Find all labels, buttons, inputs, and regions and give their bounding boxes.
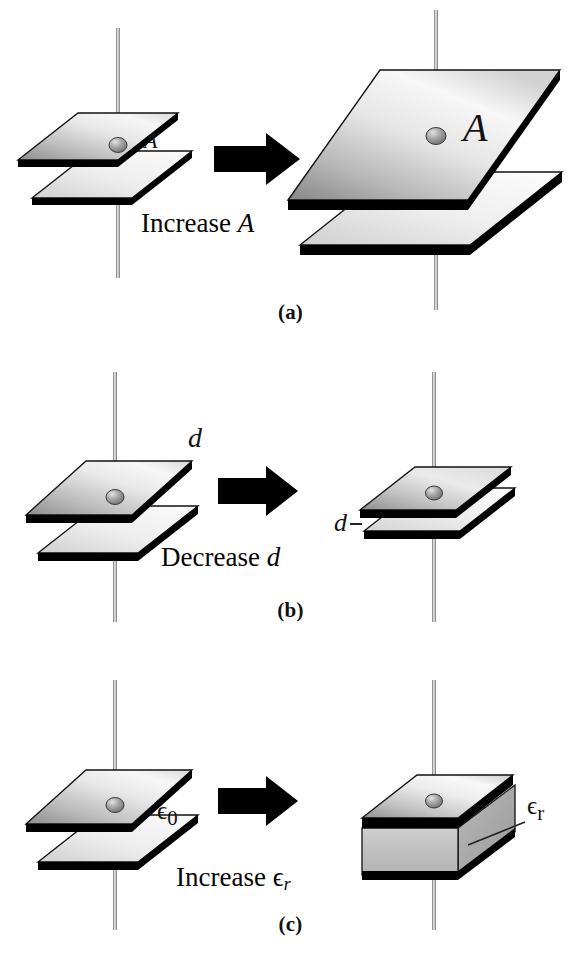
panel-c-caption: (c)	[0, 912, 581, 937]
transform-arrow-b	[218, 466, 298, 516]
panel-a-caption: (a)	[0, 300, 581, 325]
action-text-a: Increase A	[141, 208, 254, 239]
large-area-capacitor	[288, 10, 562, 310]
panel-c-graphic	[0, 640, 581, 955]
panel-b-caption: (b)	[0, 598, 581, 623]
transform-arrow-a	[214, 133, 300, 185]
area-label-small: A	[144, 128, 157, 154]
wide-gap-capacitor	[26, 372, 198, 622]
action-text-c-symbol: ϵr	[273, 862, 291, 892]
dielectric-front-face	[362, 828, 458, 875]
terminal-knob	[106, 798, 124, 813]
action-text-b-prefix: Decrease	[161, 542, 267, 572]
dielectric-filled-capacitor	[362, 680, 525, 930]
terminal-knob	[109, 138, 127, 153]
panel-b: d d Decrease d (b)	[0, 330, 581, 640]
action-text-c: Increase ϵr	[176, 862, 291, 895]
narrow-gap-capacitor	[350, 372, 515, 622]
panel-a-graphic	[0, 0, 581, 330]
transform-arrow-c	[218, 776, 298, 826]
permittivity-label-left: ϵ0	[157, 797, 178, 831]
small-area-capacitor	[18, 28, 192, 278]
terminal-knob	[426, 128, 446, 145]
terminal-knob	[426, 794, 443, 808]
panel-b-graphic	[0, 330, 581, 640]
panel-c: ϵ0 ϵr Increase ϵr (c)	[0, 640, 581, 955]
action-text-b: Decrease d	[161, 542, 280, 573]
action-text-b-symbol: d	[267, 542, 281, 572]
terminal-knob	[426, 486, 443, 500]
panel-a: A A Increase A (a)	[0, 0, 581, 330]
figure-canvas: A A Increase A (a)	[0, 0, 581, 955]
permittivity-label-right: ϵr	[527, 792, 544, 826]
action-text-a-prefix: Increase	[141, 208, 238, 238]
gap-label-left: d	[188, 422, 202, 454]
terminal-knob	[106, 490, 124, 505]
gap-label-right: d	[334, 508, 347, 538]
area-label-large: A	[463, 104, 487, 151]
action-text-a-symbol: A	[238, 208, 255, 238]
action-text-c-prefix: Increase	[176, 862, 273, 892]
